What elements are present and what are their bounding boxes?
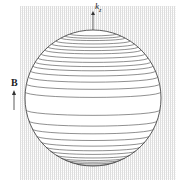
fermi-sphere-diagram: kz B	[0, 0, 186, 194]
b-field-label: B	[11, 77, 18, 88]
kz-label: kz	[95, 1, 101, 13]
b-arrow-head	[12, 90, 16, 95]
diagram-canvas	[0, 0, 186, 194]
